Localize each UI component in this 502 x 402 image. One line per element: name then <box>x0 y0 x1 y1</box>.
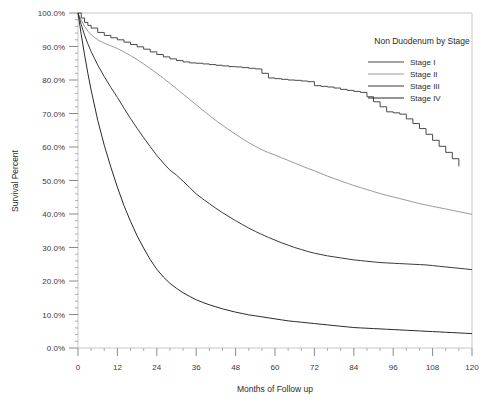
y-tick-label: 0.0% <box>47 344 65 353</box>
plot-svg: 0.0%10.0%20.0%30.0%40.0%50.0%60.0%70.0%8… <box>0 0 502 402</box>
y-tick-label: 60.0% <box>42 143 65 152</box>
y-tick-label: 50.0% <box>42 177 65 186</box>
legend-label-stage-iii: Stage III <box>410 82 440 91</box>
x-tick-label: 72 <box>310 363 319 372</box>
y-tick-label: 40.0% <box>42 210 65 219</box>
y-tick-label: 70.0% <box>42 110 65 119</box>
y-axis-title: Survival Percent <box>10 149 20 212</box>
x-tick-label: 84 <box>349 363 358 372</box>
y-tick-label: 10.0% <box>42 311 65 320</box>
y-tick-label: 20.0% <box>42 277 65 286</box>
x-tick-label: 12 <box>113 363 122 372</box>
x-tick-label: 24 <box>152 363 161 372</box>
x-tick-label: 48 <box>231 363 240 372</box>
x-tick-label: 120 <box>465 363 479 372</box>
y-tick-label: 80.0% <box>42 76 65 85</box>
x-axis: 01224364860728496108120 <box>76 348 479 372</box>
survival-chart: 0.0%10.0%20.0%30.0%40.0%50.0%60.0%70.0%8… <box>0 0 502 402</box>
legend-label-stage-i: Stage I <box>410 58 435 67</box>
x-tick-label: 36 <box>192 363 201 372</box>
x-tick-label: 108 <box>426 363 440 372</box>
x-axis-title: Months of Follow up <box>237 384 313 394</box>
curve-stage-iii <box>78 13 472 270</box>
y-tick-label: 100.0% <box>38 9 65 18</box>
legend-title: Non Duodenum by Stage <box>374 36 470 46</box>
legend-label-stage-ii: Stage II <box>410 70 438 79</box>
y-tick-label: 30.0% <box>42 244 65 253</box>
x-tick-label: 0 <box>76 363 81 372</box>
legend-label-stage-iv: Stage IV <box>410 94 441 103</box>
y-axis: 0.0%10.0%20.0%30.0%40.0%50.0%60.0%70.0%8… <box>38 9 78 353</box>
legend: Non Duodenum by StageStage IStage IIStag… <box>368 36 470 103</box>
y-tick-label: 90.0% <box>42 43 65 52</box>
x-tick-label: 96 <box>389 363 398 372</box>
x-tick-label: 60 <box>271 363 280 372</box>
